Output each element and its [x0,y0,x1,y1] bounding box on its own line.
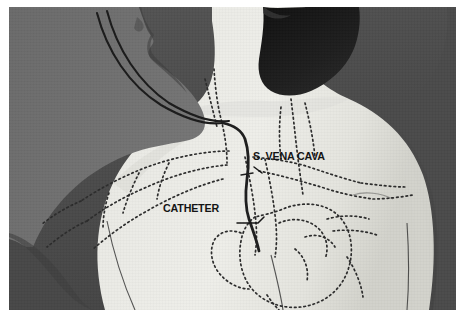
figure-container: S. VENA CAVA CATHETER [0,0,464,319]
medical-photograph [9,7,456,310]
illustration-canvas [9,7,456,310]
label-catheter: CATHETER [163,202,219,214]
label-s-vena-cava: S. VENA CAVA [253,150,325,162]
